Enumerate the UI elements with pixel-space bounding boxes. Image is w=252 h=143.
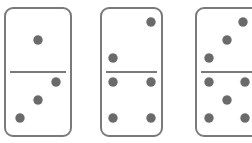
domino-divider [201, 71, 252, 73]
pip-dot [205, 78, 214, 87]
pip-dot [16, 114, 25, 123]
pip-dot [147, 18, 156, 27]
domino-divider [106, 71, 157, 73]
pip-dot [241, 78, 250, 87]
pip-dot [239, 18, 248, 27]
pip-dot [109, 114, 118, 123]
domino-divider [10, 71, 66, 73]
pip-dot [241, 114, 250, 123]
pip-dot [34, 36, 43, 45]
pip-dot [147, 78, 156, 87]
pip-dot [109, 54, 118, 63]
pip-dot [223, 96, 232, 105]
pip-dot [34, 96, 43, 105]
pip-dot [109, 78, 118, 87]
pip-dot [205, 54, 214, 63]
pip-dot [205, 114, 214, 123]
pip-dot [223, 36, 232, 45]
pip-dot [147, 114, 156, 123]
pip-dot [52, 78, 61, 87]
